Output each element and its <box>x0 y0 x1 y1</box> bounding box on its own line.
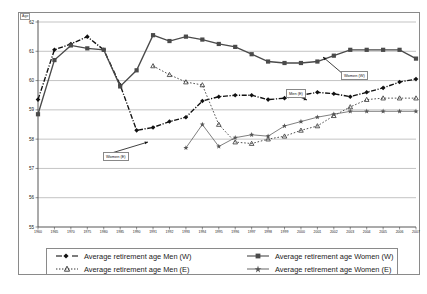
annotation-women_w: Women (W) <box>341 71 368 80</box>
x-tick-2001: 2001 <box>309 230 325 234</box>
x-tick-1990: 1990 <box>129 230 145 234</box>
chart-legend: Average retirement age Men (W) Average r… <box>46 248 398 275</box>
legend-item-women-w: Average retirement age Women (W) <box>246 250 393 262</box>
x-tick-2006: 2006 <box>392 230 408 234</box>
x-tick-1991: 1991 <box>145 230 161 234</box>
x-tick-2000: 2000 <box>293 230 309 234</box>
y-tick-57: 57 <box>22 166 34 171</box>
x-tick-1998: 1998 <box>260 230 276 234</box>
x-tick-1975: 1975 <box>79 230 95 234</box>
legend-swatch-women-w <box>246 251 272 261</box>
legend-label-women-e: Average retirement age Women (E) <box>275 265 391 274</box>
x-tick-1985: 1985 <box>112 230 128 234</box>
y-tick-61: 61 <box>22 49 34 54</box>
x-tick-1997: 1997 <box>244 230 260 234</box>
legend-item-men-w: Average retirement age Men (W) <box>55 250 191 262</box>
y-tick-55: 55 <box>22 225 34 230</box>
annotation-women_e: Women (E) <box>103 152 129 161</box>
legend-item-women-e: Average retirement age Women (E) <box>246 263 391 275</box>
legend-swatch-men-w <box>55 251 81 261</box>
legend-label-men-e: Average retirement age Men (E) <box>84 265 189 274</box>
x-tick-1970: 1970 <box>63 230 79 234</box>
legend-label-men-w: Average retirement age Men (W) <box>84 252 191 261</box>
x-tick-1960: 1960 <box>30 230 46 234</box>
x-tick-2007: 2007 <box>408 230 424 234</box>
x-tick-2003: 2003 <box>342 230 358 234</box>
y-tick-56: 56 <box>22 195 34 200</box>
legend-item-men-e: Average retirement age Men (E) <box>55 263 189 275</box>
x-tick-1995: 1995 <box>211 230 227 234</box>
x-tick-1994: 1994 <box>194 230 210 234</box>
y-tick-60: 60 <box>22 78 34 83</box>
legend-swatch-women-e <box>246 264 272 274</box>
y-tick-59: 59 <box>22 107 34 112</box>
legend-label-women-w: Average retirement age Women (W) <box>275 252 393 261</box>
y-tick-62: 62 <box>22 20 34 25</box>
x-tick-1993: 1993 <box>178 230 194 234</box>
y-tick-58: 58 <box>22 137 34 142</box>
x-tick-2005: 2005 <box>375 230 391 234</box>
retirement-age-figure: Age 5556575859606162 1960196519701975198… <box>0 0 427 294</box>
x-tick-2002: 2002 <box>326 230 342 234</box>
x-tick-1992: 1992 <box>161 230 177 234</box>
chart-plot-frame <box>18 12 420 275</box>
x-tick-2004: 2004 <box>359 230 375 234</box>
x-tick-1965: 1965 <box>46 230 62 234</box>
annotation-men_e: Men (E) <box>286 89 306 98</box>
legend-swatch-men-e <box>55 264 81 274</box>
x-tick-1996: 1996 <box>227 230 243 234</box>
x-tick-1980: 1980 <box>96 230 112 234</box>
x-tick-1999: 1999 <box>277 230 293 234</box>
